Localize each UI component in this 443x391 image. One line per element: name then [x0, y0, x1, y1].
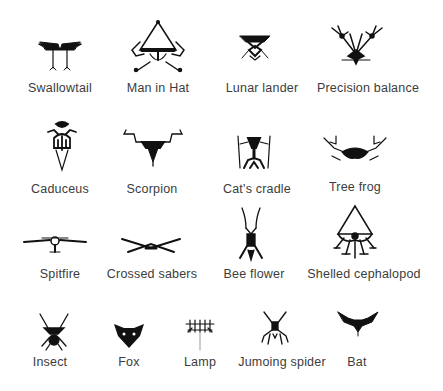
label-lamp: Lamp — [184, 355, 216, 369]
precision-balance-biomorph-icon — [328, 24, 386, 66]
jumping-spider-biomorph-icon — [260, 310, 290, 346]
shelled-cephalopod-biomorph-icon — [330, 204, 380, 262]
crossed-sabers-biomorph-icon — [120, 236, 182, 256]
cats-cradle-biomorph-icon — [234, 134, 274, 172]
label-lunar-lander: Lunar lander — [226, 81, 299, 95]
label-caduceus: Caduceus — [31, 182, 89, 196]
label-precision-balance: Precision balance — [317, 81, 419, 95]
label-fox: Fox — [118, 355, 139, 369]
spitfire-biomorph-icon — [22, 234, 88, 254]
label-scorpion: Scorpion — [127, 182, 178, 196]
label-cats-cradle: Cat's cradle — [223, 182, 291, 196]
biomorph-figure: Swallowtail Man in Hat Lunar lander — [0, 0, 443, 391]
scorpion-biomorph-icon — [122, 128, 184, 170]
label-insect: Insect — [33, 355, 68, 369]
label-jumping-spider: Jumoing spider — [238, 355, 326, 369]
lunar-lander-biomorph-icon — [238, 34, 272, 64]
swallowtail-biomorph-icon — [38, 38, 82, 72]
fox-biomorph-icon — [112, 322, 146, 350]
bat-biomorph-icon — [336, 310, 380, 338]
insect-biomorph-icon — [36, 312, 72, 352]
label-man-in-hat: Man in Hat — [127, 81, 189, 95]
lamp-biomorph-icon — [184, 316, 216, 352]
caduceus-biomorph-icon — [44, 120, 80, 172]
label-tree-frog: Tree frog — [329, 180, 381, 194]
label-bee-flower: Bee flower — [223, 267, 284, 281]
label-crossed-sabers: Crossed sabers — [107, 267, 197, 281]
tree-frog-biomorph-icon — [322, 134, 388, 166]
label-swallowtail: Swallowtail — [28, 81, 92, 95]
label-shelled-cephalopod: Shelled cephalopod — [307, 267, 420, 281]
bee-flower-biomorph-icon — [236, 206, 266, 262]
man-in-hat-biomorph-icon — [128, 20, 188, 74]
label-bat: Bat — [347, 355, 366, 369]
label-spitfire: Spitfire — [40, 267, 81, 281]
